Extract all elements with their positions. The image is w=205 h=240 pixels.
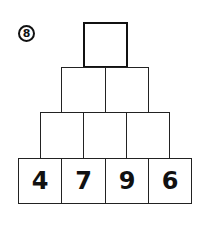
pyramid-base-cell: 7 (61, 158, 106, 204)
pyramid-base-cell: 4 (18, 158, 62, 204)
pyramid-row3-cell[interactable] (126, 112, 170, 159)
pyramid-row2-cell[interactable] (105, 67, 149, 113)
pyramid-base-cell: 9 (105, 158, 149, 204)
pyramid-row3-cell[interactable] (83, 112, 127, 159)
pyramid-row2-cell[interactable] (61, 67, 106, 113)
pyramid-top-cell[interactable] (83, 22, 128, 68)
pyramid-row3-cell[interactable] (40, 112, 84, 159)
pyramid-base-cell: 6 (148, 158, 192, 204)
problem-number-badge: 8 (18, 25, 35, 42)
